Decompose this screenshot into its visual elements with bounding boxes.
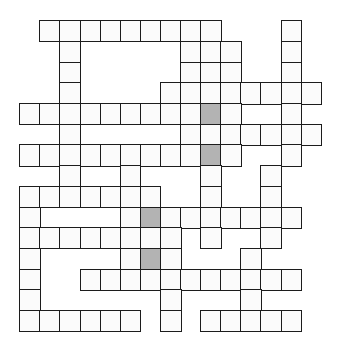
crossword-cell[interactable]: [220, 310, 242, 332]
crossword-cell-shaded[interactable]: [140, 248, 162, 270]
crossword-cell[interactable]: [59, 165, 81, 187]
crossword-cell[interactable]: [220, 144, 242, 166]
crossword-cell[interactable]: [140, 144, 162, 166]
crossword-cell[interactable]: [220, 41, 242, 63]
crossword-cell[interactable]: [260, 310, 282, 332]
crossword-cell[interactable]: [240, 124, 262, 146]
crossword-cell[interactable]: [160, 248, 182, 270]
crossword-cell[interactable]: [281, 41, 303, 63]
crossword-cell[interactable]: [160, 20, 182, 42]
crossword-cell[interactable]: [80, 227, 102, 249]
crossword-cell[interactable]: [200, 227, 222, 249]
crossword-cell-shaded[interactable]: [200, 103, 222, 125]
crossword-cell[interactable]: [59, 41, 81, 63]
crossword-cell[interactable]: [140, 20, 162, 42]
crossword-cell[interactable]: [160, 310, 182, 332]
crossword-cell[interactable]: [59, 227, 81, 249]
crossword-cell[interactable]: [200, 124, 222, 146]
crossword-cell[interactable]: [59, 20, 81, 42]
crossword-cell[interactable]: [80, 186, 102, 208]
crossword-cell[interactable]: [39, 186, 61, 208]
crossword-cell[interactable]: [200, 82, 222, 104]
crossword-cell[interactable]: [180, 20, 202, 42]
crossword-cell[interactable]: [39, 310, 61, 332]
crossword-cell[interactable]: [100, 20, 122, 42]
crossword-cell[interactable]: [200, 207, 222, 229]
crossword-cell[interactable]: [19, 186, 41, 208]
crossword-cell[interactable]: [39, 20, 61, 42]
crossword-cell[interactable]: [120, 144, 142, 166]
crossword-cell[interactable]: [200, 41, 222, 63]
crossword-cell[interactable]: [220, 103, 242, 125]
crossword-cell[interactable]: [180, 82, 202, 104]
crossword-cell[interactable]: [160, 82, 182, 104]
crossword-cell[interactable]: [100, 227, 122, 249]
crossword-cell[interactable]: [160, 144, 182, 166]
crossword-cell[interactable]: [240, 310, 262, 332]
crossword-cell[interactable]: [260, 165, 282, 187]
crossword-cell[interactable]: [281, 207, 303, 229]
crossword-cell[interactable]: [120, 310, 142, 332]
crossword-cell[interactable]: [39, 227, 61, 249]
crossword-cell[interactable]: [160, 269, 182, 291]
crossword-cell[interactable]: [80, 310, 102, 332]
crossword-cell[interactable]: [19, 310, 41, 332]
crossword-cell[interactable]: [260, 227, 282, 249]
crossword-cell[interactable]: [281, 103, 303, 125]
crossword-cell[interactable]: [180, 41, 202, 63]
crossword-cell[interactable]: [260, 186, 282, 208]
crossword-cell[interactable]: [200, 310, 222, 332]
crossword-cell[interactable]: [120, 269, 142, 291]
crossword-cell[interactable]: [240, 82, 262, 104]
crossword-cell[interactable]: [100, 144, 122, 166]
crossword-cell-shaded[interactable]: [200, 144, 222, 166]
crossword-cell[interactable]: [59, 124, 81, 146]
crossword-cell[interactable]: [260, 124, 282, 146]
crossword-cell[interactable]: [140, 186, 162, 208]
crossword-cell[interactable]: [220, 269, 242, 291]
crossword-cell[interactable]: [220, 124, 242, 146]
crossword-cell[interactable]: [200, 62, 222, 84]
crossword-cell[interactable]: [120, 165, 142, 187]
crossword-cell[interactable]: [59, 62, 81, 84]
crossword-cell[interactable]: [59, 103, 81, 125]
crossword-cell[interactable]: [140, 103, 162, 125]
crossword-cell[interactable]: [180, 269, 202, 291]
crossword-cell[interactable]: [80, 144, 102, 166]
crossword-cell[interactable]: [39, 144, 61, 166]
crossword-cell[interactable]: [100, 269, 122, 291]
crossword-cell[interactable]: [19, 103, 41, 125]
crossword-cell[interactable]: [59, 144, 81, 166]
crossword-cell[interactable]: [120, 103, 142, 125]
crossword-cell[interactable]: [200, 165, 222, 187]
crossword-cell[interactable]: [281, 62, 303, 84]
crossword-cell[interactable]: [301, 124, 323, 146]
crossword-cell[interactable]: [19, 289, 41, 311]
crossword-cell[interactable]: [260, 269, 282, 291]
crossword-cell[interactable]: [80, 269, 102, 291]
crossword-cell[interactable]: [281, 269, 303, 291]
crossword-cell-shaded[interactable]: [140, 207, 162, 229]
crossword-cell[interactable]: [301, 82, 323, 104]
crossword-cell[interactable]: [140, 269, 162, 291]
crossword-cell[interactable]: [180, 124, 202, 146]
crossword-cell[interactable]: [240, 289, 262, 311]
crossword-cell[interactable]: [140, 227, 162, 249]
crossword-cell[interactable]: [260, 82, 282, 104]
crossword-cell[interactable]: [240, 269, 262, 291]
crossword-cell[interactable]: [180, 207, 202, 229]
crossword-cell[interactable]: [200, 269, 222, 291]
crossword-cell[interactable]: [220, 82, 242, 104]
crossword-cell[interactable]: [100, 186, 122, 208]
crossword-cell[interactable]: [120, 248, 142, 270]
crossword-cell[interactable]: [200, 20, 222, 42]
crossword-cell[interactable]: [160, 207, 182, 229]
crossword-cell[interactable]: [160, 103, 182, 125]
crossword-cell[interactable]: [59, 186, 81, 208]
crossword-cell[interactable]: [220, 62, 242, 84]
crossword-cell[interactable]: [19, 144, 41, 166]
crossword-cell[interactable]: [180, 103, 202, 125]
crossword-cell[interactable]: [80, 20, 102, 42]
crossword-cell[interactable]: [19, 207, 41, 229]
crossword-cell[interactable]: [80, 103, 102, 125]
